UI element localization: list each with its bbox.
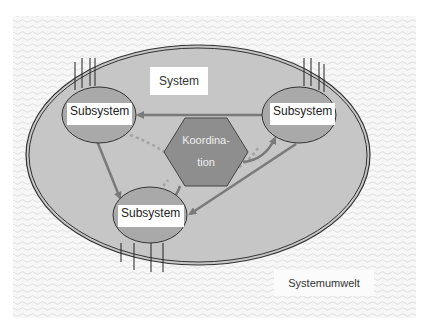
subsystem-right-label: Subsystem	[270, 103, 335, 125]
coordination-line2: tion	[171, 151, 241, 173]
subsystem-left-text: Subsystem	[70, 103, 129, 119]
coordination-line1: Koordina-	[171, 129, 241, 151]
system-label-text: System	[159, 74, 199, 88]
environment-label-text: Systemumwelt	[288, 277, 360, 289]
coordination-label: Koordina- tion	[171, 129, 241, 173]
subsystem-bottom-text: Subsystem	[121, 205, 180, 221]
subsystem-left-label: Subsystem	[67, 103, 132, 125]
subsystem-bottom-label: Subsystem	[118, 205, 184, 227]
system-label: System	[150, 67, 208, 95]
subsystem-right-text: Subsystem	[273, 103, 332, 119]
environment-label: Systemumwelt	[274, 270, 374, 296]
